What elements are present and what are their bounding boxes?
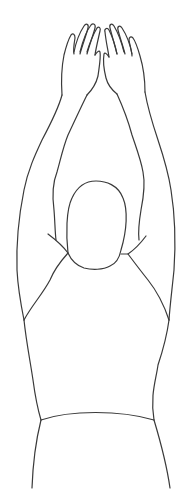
torso	[24, 320, 169, 420]
left-hand	[62, 24, 101, 95]
waistline	[41, 413, 154, 421]
person-arms-raised-drawing	[0, 0, 191, 500]
hips	[32, 420, 170, 488]
figure-illustration	[0, 0, 191, 500]
head	[67, 181, 126, 269]
right-hand	[104, 24, 145, 94]
left-arm	[17, 95, 87, 320]
shoulders	[24, 234, 169, 320]
